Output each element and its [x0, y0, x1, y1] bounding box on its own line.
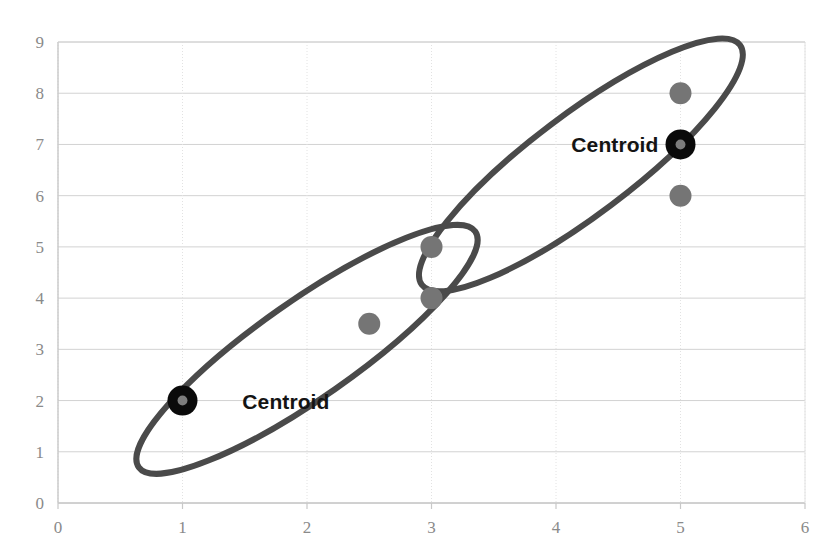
data-point: [358, 313, 380, 335]
data-point: [421, 287, 443, 309]
grid-layer: [58, 42, 805, 503]
x-tick-label: 5: [676, 519, 685, 536]
y-tick-label: 1: [36, 443, 45, 460]
data-point: [421, 236, 443, 258]
y-tick-label: 0: [36, 495, 45, 512]
y-tick-label: 4: [36, 290, 45, 307]
y-tick-label: 2: [36, 392, 45, 409]
scatter-plot: [0, 0, 839, 558]
x-tick-label: 6: [801, 519, 810, 536]
x-tick-label: 1: [178, 519, 187, 536]
centroid-label-upper: Centroid: [571, 134, 658, 155]
data-point: [670, 82, 692, 104]
centroid-label-lower: Centroid: [242, 390, 329, 411]
cluster-ellipse: [392, 5, 771, 325]
cluster-ellipse-layer: [111, 5, 770, 507]
x-tick-label: 4: [552, 519, 561, 536]
y-tick-label: 9: [36, 34, 45, 51]
data-point: [670, 185, 692, 207]
x-tick-label: 0: [54, 519, 63, 536]
x-tick-label: 3: [427, 519, 436, 536]
centroid-marker-core: [178, 396, 188, 406]
centroid-marker-core: [676, 139, 686, 149]
x-tick-label: 2: [303, 519, 312, 536]
y-tick-label: 8: [36, 85, 45, 102]
y-tick-label: 6: [36, 187, 45, 204]
y-tick-label: 7: [36, 136, 45, 153]
y-tick-label: 3: [36, 341, 45, 358]
chart-canvas: 0123456789 0123456 Centroid Centroid: [0, 0, 839, 558]
y-tick-label: 5: [36, 238, 45, 255]
